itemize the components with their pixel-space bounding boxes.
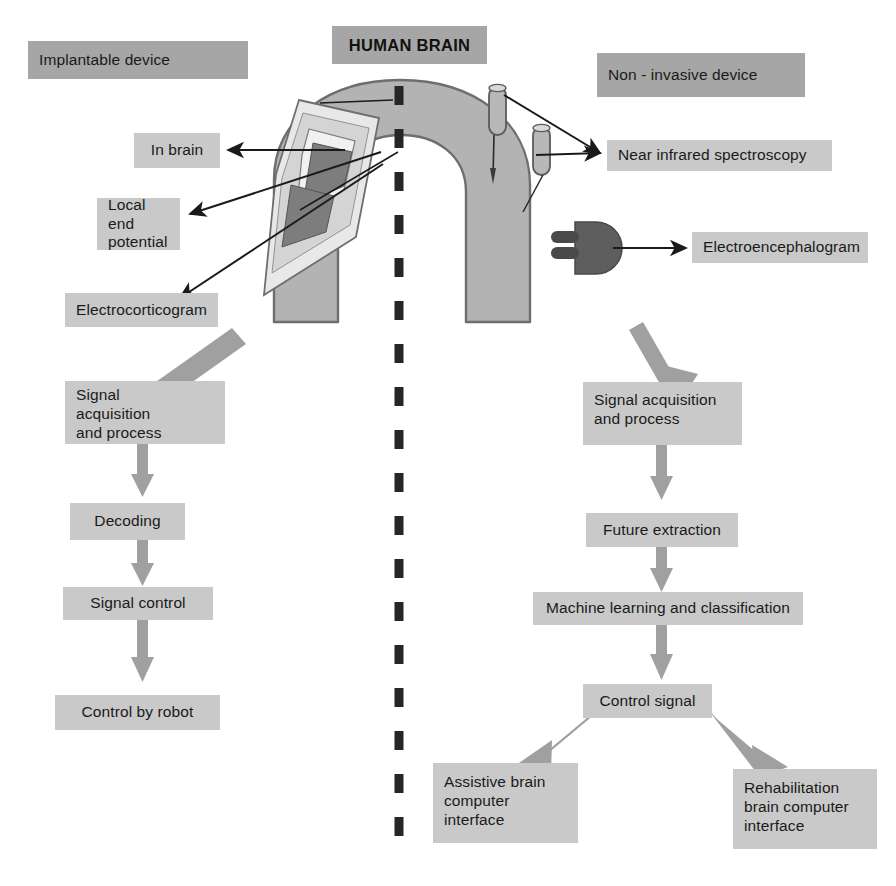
flow-right-signal-acquisition-and-process: Signal acquisition and process (583, 382, 742, 445)
header-non-invasive-device: Non - invasive device (597, 53, 805, 97)
arrow-right-future-extraction-to-ml (650, 547, 673, 592)
arrow-left-acq-to-decoding (131, 444, 154, 497)
arrow-to-electrocorticogram (180, 164, 383, 298)
flow-left-decoding: Decoding (70, 503, 185, 540)
callout-electrocorticogram: Electrocorticogram (65, 293, 218, 327)
arrow-right-acq-to-future-extraction (650, 445, 673, 500)
eeg-sensor-icon (551, 222, 622, 274)
arrow-nirs-upper (504, 95, 600, 153)
flow-left-signal-acquisition-and-process: Signal acquisition and process (65, 381, 225, 444)
callout-near-infrared-spectroscopy: Near infrared spectroscopy (607, 140, 832, 171)
outcome-rehabilitation-brain-computer-interface: Rehabilitation brain computer interface (733, 769, 877, 849)
arrow-left-signal-control-to-robot (131, 620, 154, 682)
brain-shape (274, 80, 530, 322)
flow-right-machine-learning-and-classification: Machine learning and classification (533, 592, 803, 625)
implant-lead-wires (300, 100, 398, 210)
probe-electrodes-icon (489, 84, 550, 212)
arrow-left-decoding-to-signal-control (131, 540, 154, 586)
callout-arrows (180, 95, 686, 298)
arrow-right-ml-to-control-signal (650, 625, 673, 680)
flow-left-control-by-robot: Control by robot (55, 695, 220, 730)
outcome-assistive-brain-computer-interface: Assistive brain computer interface (433, 763, 578, 843)
diagram-canvas: HUMAN BRAIN Implantable device Non - inv… (0, 0, 896, 886)
flow-right-future-extraction: Future extraction (586, 513, 738, 547)
flow-left-signal-control: Signal control (63, 587, 213, 620)
implant-array-icon (264, 100, 379, 295)
page-title: HUMAN BRAIN (332, 26, 487, 64)
callout-electroencephalogram: Electroencephalogram (692, 232, 868, 263)
header-implantable-device: Implantable device (28, 41, 248, 79)
flow-right-control-signal: Control signal (583, 684, 712, 718)
callout-local-end-potential: Local end potential (97, 198, 180, 250)
arrow-nirs-lower (536, 153, 600, 155)
callout-in-brain: In brain (134, 133, 220, 168)
